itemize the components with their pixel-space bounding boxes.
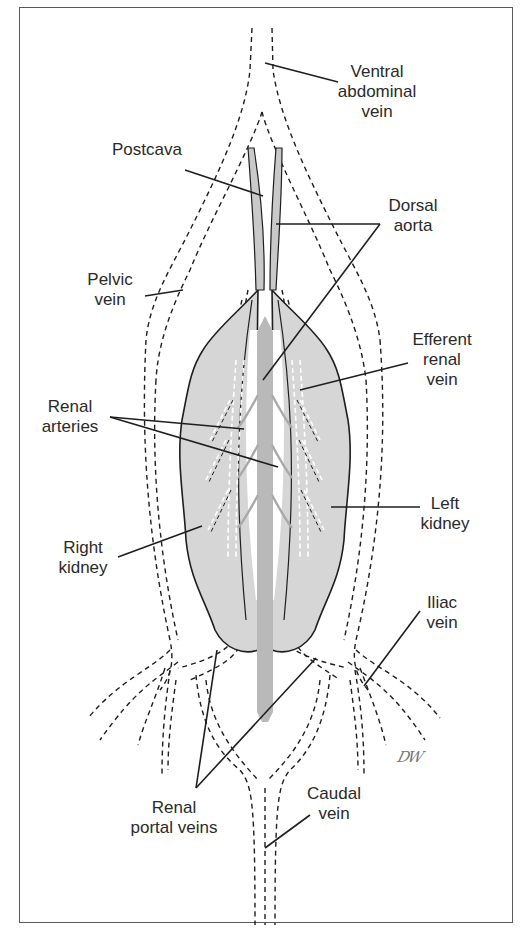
iliac-vein-right-d — [355, 670, 364, 775]
label-line: vein — [87, 290, 132, 310]
label-line: Caudal — [307, 784, 361, 804]
label-caudal-vein: Caudalvein — [307, 784, 361, 824]
iliac-vein-right-c — [360, 668, 386, 745]
label-line: vein — [338, 102, 416, 122]
label-line: Left — [420, 494, 469, 514]
leader-ventral-abdominal-vein — [265, 63, 338, 82]
pelvic-vein-right-outer — [354, 340, 382, 690]
label-left-kidney: Leftkidney — [420, 494, 469, 534]
iliac-vein-right-e — [350, 680, 358, 770]
label-line: Right — [58, 538, 107, 558]
leader-caudal-vein — [265, 815, 310, 848]
label-line: Pelvic — [87, 270, 132, 290]
leader-iliac-vein — [364, 611, 420, 686]
label-line: abdominal — [338, 82, 416, 102]
leader-renal-portal-veins — [196, 650, 217, 788]
iliac-vein-left-a — [88, 650, 170, 718]
label-line: arteries — [42, 417, 99, 437]
label-line: Renal — [42, 397, 99, 417]
iliac-vein-right-a — [356, 650, 440, 718]
label-line: renal — [412, 350, 471, 370]
label-line: kidney — [58, 558, 107, 578]
label-efferent-renal-vein: Efferentrenalvein — [412, 330, 471, 390]
label-line: Dorsal — [388, 196, 437, 216]
label-pelvic-vein: Pelvicvein — [87, 270, 132, 310]
iliac-vein-left-e — [168, 680, 176, 770]
label-line: Postcava — [112, 140, 182, 160]
leader-renal-portal-veins — [196, 658, 316, 788]
renal-portal-lower-right-inner — [268, 680, 320, 780]
label-line: Renal — [131, 798, 218, 818]
label-line: kidney — [420, 514, 469, 534]
label-right-kidney: Rightkidney — [58, 538, 107, 578]
label-line: vein — [426, 613, 457, 633]
iliac-vein-left-d — [162, 670, 170, 775]
kidney-circulation-diagram — [0, 0, 530, 930]
label-ventral-abdominal-vein: Ventralabdominalvein — [338, 62, 416, 122]
label-line: Efferent — [412, 330, 471, 350]
label-iliac-vein: Iliacvein — [426, 593, 457, 633]
label-line: vein — [307, 804, 361, 824]
label-line: Iliac — [426, 593, 457, 613]
label-line: aorta — [388, 216, 437, 236]
label-line: Ventral — [338, 62, 416, 82]
label-renal-portal-veins: Renalportal veins — [131, 798, 218, 838]
label-renal-arteries: Renalarteries — [42, 397, 99, 437]
label-line: vein — [412, 370, 471, 390]
postcava-shape — [248, 148, 264, 290]
label-dorsal-aorta: Dorsalaorta — [388, 196, 437, 236]
label-postcava: Postcava — [112, 140, 182, 160]
iliac-vein-left-c — [138, 668, 165, 745]
label-line: portal veins — [131, 818, 218, 838]
postcava-shape-right — [270, 148, 282, 290]
artist-signature: DW — [396, 748, 424, 766]
leader-pelvic-vein — [145, 290, 183, 296]
pelvic-vein-left-2 — [155, 380, 178, 640]
